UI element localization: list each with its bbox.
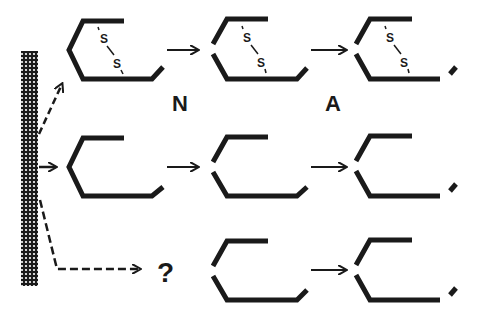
svg-text:S: S xyxy=(386,31,394,45)
row1-stage3-cleaved-tail: S S xyxy=(356,19,456,79)
row2-stage1-intact xyxy=(69,138,163,196)
row2-stage3-cleaved-tail xyxy=(356,136,456,196)
dashed-arrow-row3 xyxy=(40,200,140,269)
diagram-canvas: S S S S S S xyxy=(0,0,479,319)
disulfide-s1-row1-stage1: S xyxy=(100,32,108,46)
row3-stage3-cleaved-tail xyxy=(356,240,456,300)
svg-text:S: S xyxy=(400,56,408,70)
dashed-arrow-row1 xyxy=(39,84,62,134)
membrane-column xyxy=(21,51,38,286)
step-label-n: N xyxy=(172,91,188,117)
row1-stage2-cleaved: S S xyxy=(213,19,307,79)
unknown-origin-label: ? xyxy=(157,257,174,289)
svg-text:S: S xyxy=(243,31,251,45)
row2-stage2-cleaved xyxy=(213,137,307,196)
row3-stage2-cleaved xyxy=(213,241,307,300)
disulfide-s2-row1-stage1: S xyxy=(113,57,121,71)
svg-text:S: S xyxy=(257,56,265,70)
step-label-a: A xyxy=(325,91,341,117)
